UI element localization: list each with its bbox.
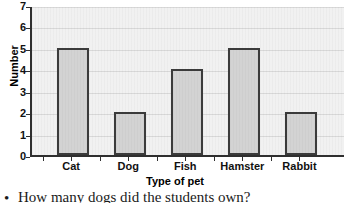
bar [114,112,146,155]
caption-question-text: How many dogs did the students own? [18,190,250,203]
x-axis-boundary-tick-mark [214,157,215,161]
plot-area [30,7,344,157]
y-axis-tick-label: 3 [6,87,26,98]
x-axis-tick-mark [299,157,300,161]
x-axis-boundary-tick-mark [157,157,158,161]
caption-bullet: • [4,190,9,203]
caption-line: • How many dogs did the students own? [0,190,344,203]
bar [57,48,89,155]
x-axis-tick-label: Fish [174,160,197,172]
bar-chart-figure: Number 01234567 CatDogFishHamsterRabbit … [0,0,344,203]
x-axis-tick-label: Dog [117,160,138,172]
gridline [32,7,344,8]
y-axis-tick-label: 0 [6,151,26,162]
x-axis-title: Type of pet [30,175,320,187]
plot-inner [32,7,344,155]
x-axis-tick-label: Hamster [220,160,264,172]
x-axis-tick-mark [71,157,72,161]
bar [228,48,260,155]
y-axis-tick-label: 6 [6,22,26,33]
gridline [32,28,344,29]
x-axis-boundary-tick-mark [100,157,101,161]
bar [285,112,317,155]
y-axis-tick-label: 4 [6,65,26,76]
x-axis-tick-label: Cat [62,160,80,172]
bar [171,69,203,155]
y-axis-tick-label: 1 [6,130,26,141]
y-axis-tick-label: 2 [6,108,26,119]
y-axis-tick-mark [26,157,30,158]
y-axis-tick-label: 7 [6,1,26,12]
y-axis-tick-label: 5 [6,44,26,55]
x-axis-tick-mark [185,157,186,161]
x-axis-tick-label: Rabbit [282,160,316,172]
x-axis-boundary-tick-mark [43,157,44,161]
x-axis-tick-mark [242,157,243,161]
x-axis-boundary-tick-mark [271,157,272,161]
x-axis-tick-mark [128,157,129,161]
